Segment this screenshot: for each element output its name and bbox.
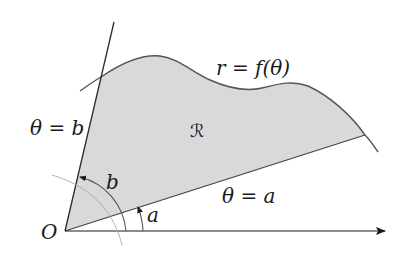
label-origin: O (41, 222, 57, 242)
label-ray-b: θ = b (30, 118, 84, 138)
polar-region-diagram: r = f(θ) θ = b ℛ b θ = a a O (0, 0, 399, 256)
label-region: ℛ (190, 122, 204, 140)
label-ray-a: θ = a (222, 186, 275, 206)
label-curve: r = f(θ) (216, 58, 290, 78)
label-angle-b: b (106, 172, 119, 192)
angle-arc-a (138, 207, 143, 231)
label-angle-a: a (147, 205, 159, 225)
